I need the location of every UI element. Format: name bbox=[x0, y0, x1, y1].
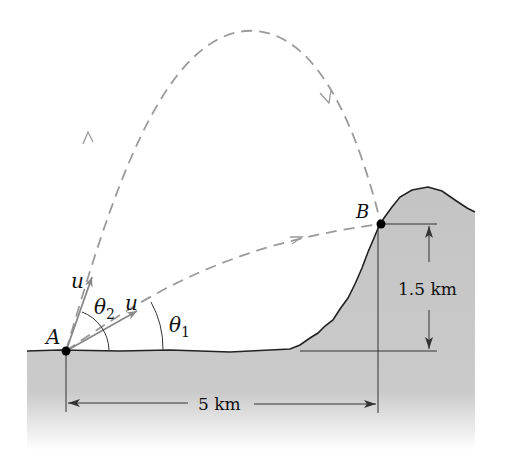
label-velocity-lower: u bbox=[125, 291, 138, 315]
label-velocity-upper: u bbox=[71, 269, 84, 293]
projectile-diagram: A B u u θ2 θ1 1.5 km 5 km bbox=[0, 0, 511, 468]
trajectory-high bbox=[66, 31, 381, 351]
angle-arc-theta1 bbox=[151, 302, 163, 350]
label-theta2: θ2 bbox=[94, 295, 115, 322]
point-b bbox=[377, 220, 386, 229]
trajectory-high-arrow-down bbox=[320, 90, 331, 103]
label-height-dimension: 1.5 km bbox=[398, 279, 457, 299]
label-horizontal-dimension: 5 km bbox=[198, 394, 241, 414]
label-point-a: A bbox=[44, 325, 60, 349]
label-point-b: B bbox=[355, 201, 369, 222]
label-theta1: θ1 bbox=[169, 313, 190, 340]
point-a bbox=[62, 347, 71, 356]
trajectory-high-arrow-up bbox=[83, 132, 93, 144]
